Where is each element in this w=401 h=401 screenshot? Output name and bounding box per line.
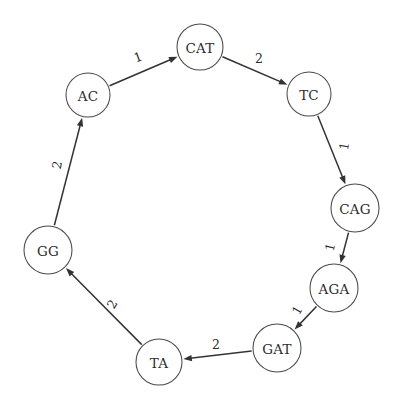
arrowhead-icon	[77, 118, 83, 127]
arrowhead-icon	[168, 57, 177, 63]
edge-weight-label: 1	[322, 241, 339, 253]
edge-line	[223, 57, 284, 83]
graph-canvas: CATTCCAGAGAGATTAGGAC 12111222	[0, 0, 401, 401]
node-label: TC	[299, 87, 319, 103]
node-label: TA	[150, 355, 168, 371]
edge-ta-to-gg	[66, 268, 142, 344]
edge-weight-label: 1	[132, 49, 145, 66]
node-label: GAT	[262, 341, 291, 357]
node-ta[interactable]: TA	[136, 339, 182, 385]
edge-weight-label: 1	[336, 141, 352, 151]
node-cag[interactable]: CAG	[331, 184, 379, 232]
edge-weight-label: 2	[212, 337, 220, 352]
graph-svg: CATTCCAGAGAGATTAGGAC 12111222	[0, 0, 401, 401]
edge-gat-to-ta	[183, 351, 251, 361]
node-label: AC	[77, 88, 98, 104]
node-label: AGA	[318, 281, 350, 297]
node-gat[interactable]: GAT	[253, 324, 301, 372]
nodes-layer: CATTCCAGAGAGATTAGGAC	[24, 24, 379, 385]
arrowhead-icon	[340, 254, 346, 263]
node-label: CAT	[186, 40, 215, 56]
node-label: CAG	[339, 201, 370, 217]
edge-weight-label: 1	[289, 303, 306, 317]
edge-gg-to-ac	[54, 118, 83, 226]
edge-line	[342, 233, 349, 259]
edge-weight-label: 2	[49, 160, 65, 171]
node-label: GG	[37, 243, 59, 259]
edge-line	[188, 351, 252, 359]
arrowhead-icon	[339, 175, 345, 184]
edge-weight-label: 2	[255, 51, 263, 66]
arrowhead-icon	[278, 78, 287, 84]
edge-line	[54, 122, 81, 225]
node-cat[interactable]: CAT	[177, 24, 223, 70]
edge-cag-to-aga	[340, 233, 349, 264]
node-aga[interactable]: AGA	[310, 264, 358, 312]
arrowhead-icon	[183, 355, 192, 361]
edge-line	[69, 271, 142, 344]
node-gg[interactable]: GG	[24, 226, 72, 274]
node-ac[interactable]: AC	[66, 73, 110, 117]
node-tc[interactable]: TC	[287, 72, 331, 116]
